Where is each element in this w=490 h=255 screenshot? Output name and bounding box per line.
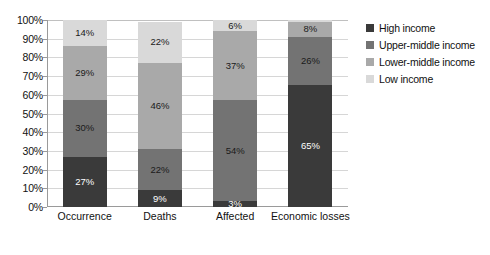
x-axis-tick-label: Economic losses: [267, 210, 353, 223]
x-axis-labels: OccurrenceDeathsAffectedEconomic losses: [47, 210, 348, 252]
bar-segment[interactable]: 6%: [213, 20, 257, 31]
bar-segment-value-label: 9%: [153, 194, 167, 204]
bar-segment[interactable]: 22%: [138, 22, 182, 63]
bar-segment[interactable]: 8%: [288, 22, 332, 37]
bar-segment-value-label: 22%: [151, 165, 170, 175]
bar-segment[interactable]: 37%: [213, 31, 257, 100]
x-axis-tick-label: Deaths: [117, 210, 203, 223]
bar-segment-value-label: 6%: [228, 21, 242, 31]
legend-item[interactable]: High income: [366, 20, 488, 36]
bar-segment[interactable]: 3%: [213, 201, 257, 207]
bar-segment-value-label: 46%: [151, 101, 170, 111]
bar-segment-value-label: 14%: [75, 28, 94, 38]
bar-segment[interactable]: 30%: [63, 100, 107, 156]
bar-segment-value-label: 65%: [301, 141, 320, 151]
bar-segment-value-label: 27%: [75, 177, 94, 187]
bar-segment-value-label: 29%: [75, 68, 94, 78]
stacked-bar-chart: 0%10%20%30%40%50%60%70%80%90%100% 27%30%…: [0, 0, 490, 255]
bar-segment-value-label: 37%: [226, 61, 245, 71]
legend-swatch-icon: [366, 58, 374, 66]
bar-segment-value-label: 54%: [226, 146, 245, 156]
legend-item[interactable]: Upper-middle income: [366, 37, 488, 53]
bar-segment[interactable]: [288, 20, 332, 22]
bar-segment-value-label: 8%: [304, 24, 318, 34]
bar-segment[interactable]: 26%: [288, 37, 332, 86]
x-axis-tick-label: Affected: [192, 210, 278, 223]
plot-area: 27%30%29%14%9%22%46%22%3%54%37%6%65%26%8…: [47, 20, 348, 207]
bar-segment[interactable]: 46%: [138, 63, 182, 149]
legend-item-label: Upper-middle income: [379, 40, 475, 51]
bar-stack: 27%30%29%14%: [63, 20, 107, 207]
bar-stack: 9%22%46%22%: [138, 20, 182, 207]
legend-item-label: High income: [379, 23, 435, 34]
legend-swatch-icon: [366, 41, 374, 49]
bar-stack: 65%26%8%: [288, 20, 332, 207]
bar-segment-value-label: 30%: [75, 123, 94, 133]
bar-segment-value-label: 26%: [301, 56, 320, 66]
bar-segment-value-label: 3%: [228, 201, 242, 207]
legend-item[interactable]: Low income: [366, 71, 488, 87]
y-axis-ticks: [0, 20, 47, 207]
bar-segment[interactable]: 27%: [63, 157, 107, 207]
legend-item-label: Lower-middle income: [379, 57, 475, 68]
bar-segment-value-label: 22%: [151, 37, 170, 47]
legend-item-label: Low income: [379, 74, 433, 85]
legend-swatch-icon: [366, 75, 374, 83]
bar-segment[interactable]: 65%: [288, 85, 332, 207]
bar-stack: 3%54%37%6%: [213, 20, 257, 207]
x-axis-tick-label: Occurrence: [42, 210, 128, 223]
bar-segment[interactable]: 54%: [213, 100, 257, 201]
bar-segment[interactable]: 22%: [138, 149, 182, 190]
chart-legend: High incomeUpper-middle incomeLower-midd…: [366, 20, 488, 88]
legend-swatch-icon: [366, 24, 374, 32]
y-axis-tick-mark: [43, 207, 47, 208]
bar-segment[interactable]: 14%: [63, 20, 107, 46]
bar-segment[interactable]: 29%: [63, 46, 107, 100]
legend-item[interactable]: Lower-middle income: [366, 54, 488, 70]
bar-segment[interactable]: 9%: [138, 190, 182, 207]
